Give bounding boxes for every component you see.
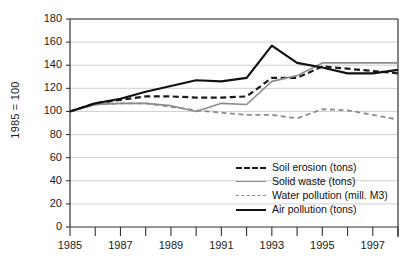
legend-label-air-pollution: Air pollution (tons) [272,203,357,215]
legend-swatch-soil-erosion [236,162,266,172]
legend-swatch-solid-waste [236,176,266,186]
legend-label-solid-waste: Solid waste (tons) [272,175,355,187]
plot-area [0,0,417,262]
legend-item-air-pollution: Air pollution (tons) [236,202,414,216]
legend-swatch-water-pollution [236,190,266,200]
legend-item-soil-erosion: Soil erosion (tons) [236,160,414,174]
series-line-solid-waste-tons [70,63,398,112]
line-chart: 1985 = 100 020406080100120140160180 1985… [0,0,417,262]
legend-label-soil-erosion: Soil erosion (tons) [272,161,357,173]
legend-swatch-air-pollution [236,204,266,214]
chart-legend: Soil erosion (tons) Solid waste (tons) W… [236,160,414,216]
legend-item-solid-waste: Solid waste (tons) [236,174,414,188]
legend-item-water-pollution: Water pollution (mill. M3) [236,188,414,202]
series-line-air-pollution-tons [70,46,398,112]
legend-label-water-pollution: Water pollution (mill. M3) [272,189,388,201]
